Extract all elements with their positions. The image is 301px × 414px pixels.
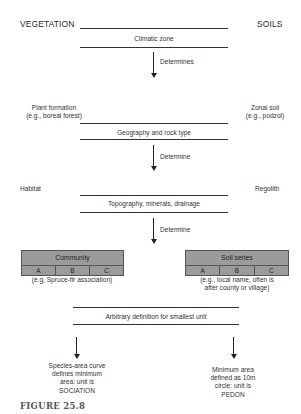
figure-label: FIGURE 25.8 (20, 401, 85, 411)
sociation-line-1: Species-area curve (36, 362, 118, 370)
pedon-line-3: circle: unit is (198, 382, 268, 390)
geography-bottom-line (80, 139, 228, 140)
soils-header: SOILS (257, 19, 283, 29)
soil-series-caption-line-2: after county or village) (180, 284, 294, 292)
soil-series-title: Soil series (186, 251, 288, 266)
determine-label-2: Determine (160, 153, 190, 160)
sociation-line-2: defines minimum (36, 370, 118, 378)
climatic-zone-bottom-line (80, 47, 228, 48)
community-cell-b: B (56, 266, 90, 275)
determine-arrow-2 (153, 145, 154, 167)
pedon-line-4: PEDON (198, 391, 268, 399)
community-title: Community (22, 251, 123, 266)
pedon-outcome: Minimum area defined as 10m circle: unit… (198, 366, 268, 399)
regolith-label: Regolith (255, 185, 279, 193)
sociation-line-4: SOCIATION (36, 387, 118, 395)
community-caption: (e.g, Spruce-fir association) (14, 276, 130, 284)
topography-bottom-line (80, 212, 228, 213)
pedon-line-1: Minimum area (198, 366, 268, 374)
soil-series-cell-b: B (220, 266, 254, 275)
soil-series-box: Soil series A B C (185, 250, 289, 276)
topography-label: Topography, minerals, drainage (80, 200, 228, 207)
sociation-outcome: Species-area curve defines minimum area:… (36, 362, 118, 395)
arbitrary-definition-top-line (73, 307, 239, 308)
zonal-soil-label: Zonal soil (e.g., podzol) (232, 104, 298, 120)
geography-label: Geography and rock type (80, 129, 228, 136)
habitat-label: Habitat (20, 185, 41, 193)
zonal-soil-example: (e.g., podzol) (232, 112, 298, 120)
determines-arrow-1 (153, 52, 154, 74)
plant-formation-title: Plant formation (14, 104, 94, 112)
arbitrary-definition-label: Arbitrary definition for smallest unit (73, 313, 239, 320)
climatic-zone-top-line (80, 28, 228, 29)
community-box: Community A B C (21, 250, 124, 276)
sociation-line-3: area: unit is (36, 378, 118, 386)
soil-series-horizons: A B C (186, 266, 288, 275)
pedon-arrow (233, 337, 234, 355)
soil-series-cell-c: C (255, 266, 288, 275)
determine-arrow-3 (153, 218, 154, 240)
arbitrary-definition-bottom-line (73, 324, 239, 325)
pedon-line-2: defined as 10m (198, 374, 268, 382)
vegetation-header: VEGETATION (20, 19, 75, 29)
plant-formation-example: (e.g., boreal forest) (14, 112, 94, 120)
determine-label-3: Determine (160, 226, 190, 233)
community-cell-c: C (90, 266, 123, 275)
sociation-arrow (76, 337, 77, 355)
community-horizons: A B C (22, 266, 123, 275)
soil-series-caption: (e.g., local name, often is after county… (180, 276, 294, 292)
community-cell-a: A (22, 266, 56, 275)
topography-top-line (80, 195, 228, 196)
zonal-soil-title: Zonal soil (232, 104, 298, 112)
climatic-zone-label: Climatic zone (80, 35, 228, 42)
geography-top-line (80, 123, 228, 124)
plant-formation-label: Plant formation (e.g., boreal forest) (14, 104, 94, 120)
soil-series-cell-a: A (186, 266, 220, 275)
soil-series-caption-line-1: (e.g., local name, often is (180, 276, 294, 284)
determines-label-1: Determines (160, 58, 194, 65)
